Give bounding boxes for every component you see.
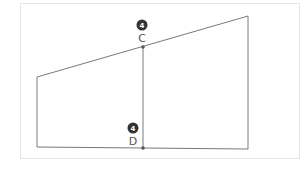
point-d-marker: 4 D	[128, 123, 139, 149]
point-d-label: D	[129, 135, 137, 148]
point-c-marker: 4 C	[137, 20, 148, 46]
badge-c-number: 4	[140, 22, 145, 30]
point-d-dot	[141, 146, 145, 150]
trapezoid-diagram: 4 C 4 D	[0, 0, 308, 173]
point-c-dot	[141, 45, 145, 49]
badge-d-number: 4	[131, 125, 136, 133]
point-c-label: C	[138, 32, 146, 45]
